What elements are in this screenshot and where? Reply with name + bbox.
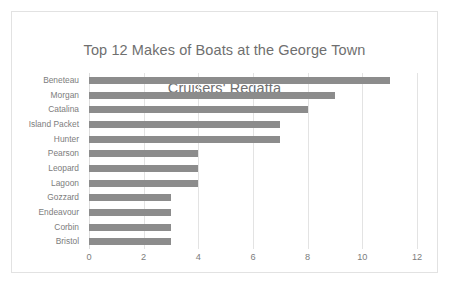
category-label: Pearson [15,149,79,158]
gridline-4 [198,73,199,249]
bar[interactable] [89,121,280,128]
category-label: Endeavour [15,208,79,217]
x-tick-label: 4 [196,252,201,263]
gridline-12 [417,73,418,249]
category-label: Catalina [15,105,79,114]
category-label: Bristol [15,237,79,246]
x-tick-label: 0 [86,252,91,263]
category-label: Lagoon [15,179,79,188]
bar[interactable] [89,238,171,245]
category-label: Island Packet [15,120,79,129]
x-tick-label: 8 [305,252,310,263]
bar[interactable] [89,180,198,187]
category-axis-labels: BeneteauMorganCatalinaIsland PacketHunte… [15,73,79,249]
gridline-6 [253,73,254,249]
x-tick-label: 12 [412,252,422,263]
category-label: Beneteau [15,76,79,85]
bar[interactable] [89,150,198,157]
bar[interactable] [89,165,198,172]
plot-wrapper: BeneteauMorganCatalinaIsland PacketHunte… [12,12,439,274]
category-label: Leopard [15,164,79,173]
gridline-8 [308,73,309,249]
category-label: Hunter [15,135,79,144]
chart-frame: Top 12 Makes of Boats at the George Town… [11,11,438,273]
gridline-10 [362,73,363,249]
x-tick-label: 10 [357,252,367,263]
bar[interactable] [89,77,390,84]
category-label: Morgan [15,91,79,100]
bar[interactable] [89,136,280,143]
bar[interactable] [89,224,171,231]
bar[interactable] [89,194,171,201]
chart-screenshot: Top 12 Makes of Boats at the George Town… [0,0,450,288]
category-label: Corbin [15,223,79,232]
value-axis-tick-labels: 024681012 [89,252,417,266]
category-label: Gozzard [15,193,79,202]
bar[interactable] [89,106,308,113]
bar[interactable] [89,209,171,216]
x-tick-label: 2 [141,252,146,263]
bar[interactable] [89,92,335,99]
plot-area [89,73,417,249]
x-tick-label: 6 [250,252,255,263]
